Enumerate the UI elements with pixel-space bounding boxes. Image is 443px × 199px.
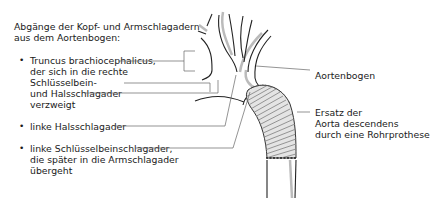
aorta-illustration <box>0 0 443 199</box>
